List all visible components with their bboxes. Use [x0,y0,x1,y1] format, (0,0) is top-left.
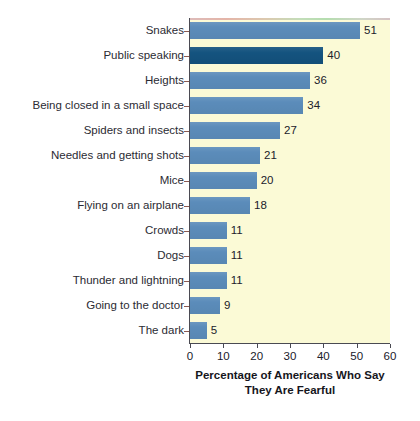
category-label: Being closed in a small space [0,99,184,112]
category-label: Going to the doctor [0,299,184,312]
plot-top-color-strip [190,18,390,20]
bar-value-label: 18 [254,197,267,214]
category-label: Needles and getting shots [0,149,184,162]
value-tick-label: 50 [342,350,372,362]
category-tick [184,281,189,282]
bar-value-label: 36 [314,72,327,89]
category-label: Spiders and insects [0,124,184,137]
bar [190,22,360,39]
category-tick [184,331,189,332]
category-tick [184,106,189,107]
bar [190,147,260,164]
value-tick [323,344,324,348]
category-tick [184,181,189,182]
category-axis-line [189,18,190,344]
bar-value-label: 40 [327,47,340,64]
category-label: Thunder and lightning [0,274,184,287]
bar [190,297,220,314]
category-tick [184,206,189,207]
bar [190,122,280,139]
value-tick [190,344,191,348]
bar-value-label: 21 [264,147,277,164]
value-tick-label: 20 [242,350,272,362]
bar-value-label: 5 [211,322,217,339]
bar [190,97,303,114]
bar [190,322,207,339]
value-tick [290,344,291,348]
bar-chart-figure: SnakesPublic speakingHeightsBeing closed… [0,0,420,421]
bar [190,72,310,89]
bar [190,172,257,189]
category-label: Heights [0,74,184,87]
value-tick [223,344,224,348]
value-axis-title-line: They Are Fearful [190,383,390,398]
category-tick [184,256,189,257]
category-label: Crowds [0,224,184,237]
value-tick-label: 60 [375,350,405,362]
bar-value-label: 20 [261,172,274,189]
category-tick [184,131,189,132]
category-tick [184,56,189,57]
plot-area: 514036342721201811111195 [190,18,390,343]
value-tick [357,344,358,348]
bar [190,197,250,214]
category-tick [184,31,189,32]
value-tick-label: 30 [275,350,305,362]
bar [190,247,227,264]
category-tick [184,81,189,82]
category-label: The dark [0,324,184,337]
value-tick [257,344,258,348]
category-label: Public speaking [0,49,184,62]
value-tick-label: 0 [175,350,205,362]
value-axis-title-line: Percentage of Americans Who Say [190,368,390,383]
value-tick-label: 40 [308,350,338,362]
bar-value-label: 11 [231,222,243,239]
bar-value-label: 51 [364,22,377,39]
bar-value-label: 11 [231,272,243,289]
value-tick-label: 10 [208,350,238,362]
category-label: Flying on an airplane [0,199,184,212]
category-axis: SnakesPublic speakingHeightsBeing closed… [0,18,184,343]
bar-value-label: 9 [224,297,230,314]
category-tick [184,156,189,157]
category-label: Snakes [0,24,184,37]
category-tick [184,231,189,232]
category-label: Dogs [0,249,184,262]
bar [190,222,227,239]
bar-value-label: 27 [284,122,297,139]
bar [190,272,227,289]
bar-value-label: 11 [231,247,243,264]
value-axis-title: Percentage of Americans Who SayThey Are … [190,368,390,398]
bar-value-label: 34 [307,97,320,114]
category-tick [184,306,189,307]
bar [190,47,323,64]
category-label: Mice [0,174,184,187]
value-tick [390,344,391,348]
